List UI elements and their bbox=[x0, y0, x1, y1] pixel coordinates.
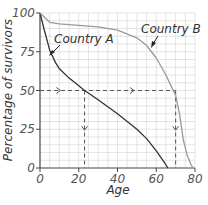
x-axis-label: Age bbox=[105, 183, 129, 197]
y-tick-label: 50 bbox=[20, 84, 36, 98]
x-tick-label: 60 bbox=[149, 172, 165, 186]
x-tick-label: 0 bbox=[36, 172, 44, 186]
country-a-label: Country A bbox=[54, 32, 114, 46]
y-tick-label: 25 bbox=[20, 122, 35, 136]
annotations: Country ACountry B bbox=[49, 22, 201, 56]
x-tick-label: 80 bbox=[187, 172, 203, 186]
y-tick-label: 75 bbox=[20, 45, 35, 59]
survivorship-chart: 0204060800255075100 Age Percentage of su… bbox=[0, 0, 208, 205]
dashed-guides bbox=[40, 88, 179, 169]
y-tick-label: 0 bbox=[27, 161, 35, 175]
x-tick-label: 20 bbox=[71, 172, 87, 186]
country-b-label: Country B bbox=[141, 22, 201, 36]
y-axis-label: Percentage of survivors bbox=[1, 19, 15, 161]
y-tick-label: 100 bbox=[12, 6, 35, 20]
